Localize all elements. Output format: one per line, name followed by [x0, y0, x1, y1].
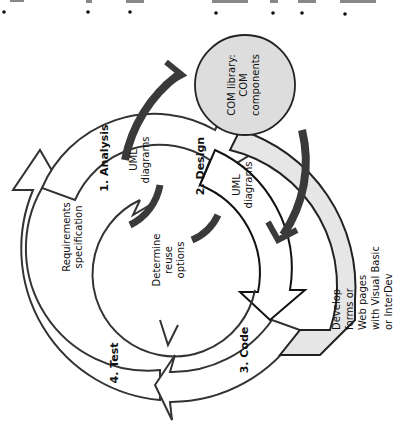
center-line1: Determine	[151, 234, 162, 287]
design-detail-line2: diagrams	[243, 162, 254, 209]
com-library-line2: COM	[238, 73, 249, 96]
phase-test-label: 4. Test	[108, 343, 121, 384]
develop-line3: Web pages	[357, 275, 368, 330]
phase-analysis-label: 1. Analysis	[98, 124, 111, 192]
develop-line4: with Visual Basic	[370, 246, 381, 330]
test-arrow-segment	[13, 150, 160, 400]
develop-line2: forms or	[344, 287, 355, 330]
top-bullet-list	[2, 0, 376, 16]
com-library-line3: components	[250, 54, 261, 116]
develop-line1: Develop	[331, 289, 342, 330]
design-detail-line1: UML	[231, 174, 242, 196]
com-library-line1: COM library:	[226, 54, 237, 115]
com-library-node: COM library: COM components	[195, 35, 295, 135]
phase-design-label: 2. Design	[194, 137, 207, 195]
phase-code-label: 3. Code	[238, 327, 251, 374]
analysis-detail-line2: diagrams	[140, 137, 151, 184]
requirements-line2: specification	[73, 205, 84, 268]
center-line3: options	[175, 242, 186, 279]
analysis-detail-line1: UML	[128, 149, 139, 171]
code-arrow-segment	[155, 320, 300, 420]
center-line2: reuse	[163, 246, 174, 274]
requirements-line1: Requirements	[61, 202, 72, 272]
reuse-development-cycle-diagram: COM library: COM components 1. Analysis …	[0, 0, 407, 422]
inner-ring	[92, 200, 255, 356]
develop-line5: or InterDev	[383, 273, 394, 330]
